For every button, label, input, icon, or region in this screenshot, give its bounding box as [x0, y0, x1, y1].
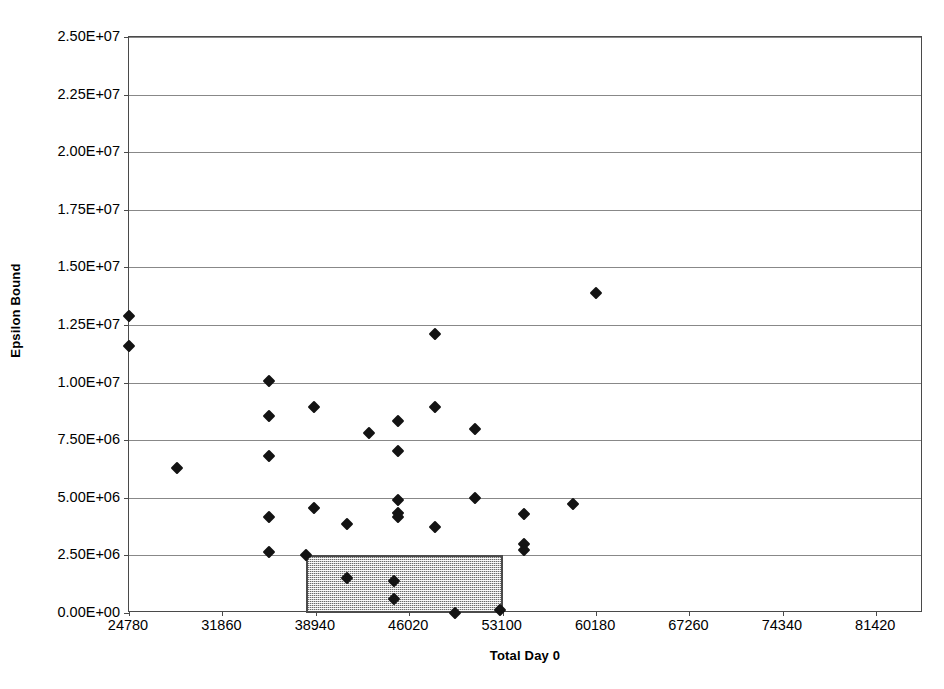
- x-tick-mark: [783, 611, 784, 616]
- gridline: [129, 498, 921, 499]
- x-tick-mark: [596, 611, 597, 616]
- y-tick-mark: [124, 37, 129, 38]
- y-tick-label: 7.50E+06: [34, 432, 120, 447]
- x-tick-mark: [876, 611, 877, 616]
- data-point: [469, 491, 482, 504]
- data-point: [392, 414, 405, 427]
- data-point: [517, 508, 530, 521]
- gridline: [129, 95, 921, 96]
- y-axis-tick-labels: 0.00E+002.50E+065.00E+067.50E+061.00E+07…: [32, 0, 120, 689]
- y-tick-label: 2.00E+07: [34, 144, 120, 159]
- x-tick-label: 74340: [762, 618, 802, 633]
- data-point: [170, 461, 183, 474]
- data-point: [363, 427, 376, 440]
- x-tick-mark: [129, 611, 130, 616]
- plot-area: [128, 36, 922, 612]
- x-tick-label: 38940: [295, 618, 335, 633]
- y-axis-title-text: Epsilon Bound: [8, 263, 23, 357]
- y-tick-label: 1.50E+07: [34, 259, 120, 274]
- y-tick-mark: [124, 210, 129, 211]
- x-tick-label: 81420: [855, 618, 895, 633]
- y-tick-label: 1.00E+07: [34, 374, 120, 389]
- y-tick-label: 2.50E+07: [34, 29, 120, 44]
- gridline: [129, 555, 921, 556]
- data-point: [429, 328, 442, 341]
- x-tick-label: 31860: [201, 618, 241, 633]
- data-point: [392, 494, 405, 507]
- highlight-region-box: [306, 555, 503, 613]
- data-point: [429, 400, 442, 413]
- data-point: [263, 375, 276, 388]
- x-axis-title: Total Day 0: [128, 648, 922, 663]
- gridline: [129, 152, 921, 153]
- gridline: [129, 383, 921, 384]
- data-point: [123, 309, 136, 322]
- data-point: [123, 339, 136, 352]
- data-point: [392, 444, 405, 457]
- y-tick-label: 1.25E+07: [34, 317, 120, 332]
- gridline: [129, 267, 921, 268]
- gridline: [129, 210, 921, 211]
- data-point: [590, 286, 603, 299]
- y-tick-mark: [124, 152, 129, 153]
- data-point: [308, 400, 321, 413]
- data-point: [263, 511, 276, 524]
- data-point: [429, 520, 442, 533]
- gridline: [129, 325, 921, 326]
- data-point: [566, 497, 579, 510]
- x-tick-label: 53100: [481, 618, 521, 633]
- data-point: [341, 518, 354, 531]
- y-tick-mark: [124, 267, 129, 268]
- y-tick-label: 2.25E+07: [34, 86, 120, 101]
- data-point: [308, 502, 321, 515]
- gridline: [129, 37, 921, 38]
- scatter-chart: Epsilon Bound 0.00E+002.50E+065.00E+067.…: [0, 0, 944, 689]
- y-tick-label: 5.00E+06: [34, 490, 120, 505]
- x-axis-tick-labels: 2478031860389404602053100601806726074340…: [128, 618, 922, 644]
- data-point: [263, 410, 276, 423]
- y-tick-mark: [124, 555, 129, 556]
- x-tick-label: 46020: [388, 618, 428, 633]
- y-tick-mark: [124, 440, 129, 441]
- data-point: [263, 450, 276, 463]
- y-axis-title: Epsilon Bound: [0, 0, 30, 620]
- y-tick-mark: [124, 498, 129, 499]
- data-point: [469, 422, 482, 435]
- y-tick-mark: [124, 325, 129, 326]
- y-tick-label: 1.75E+07: [34, 202, 120, 217]
- gridline: [129, 440, 921, 441]
- x-tick-label: 24780: [108, 618, 148, 633]
- x-tick-mark: [222, 611, 223, 616]
- x-tick-label: 60180: [575, 618, 615, 633]
- x-tick-label: 67260: [668, 618, 708, 633]
- data-point: [263, 546, 276, 559]
- x-tick-mark: [689, 611, 690, 616]
- y-tick-label: 2.50E+06: [34, 547, 120, 562]
- y-tick-mark: [124, 95, 129, 96]
- y-tick-mark: [124, 383, 129, 384]
